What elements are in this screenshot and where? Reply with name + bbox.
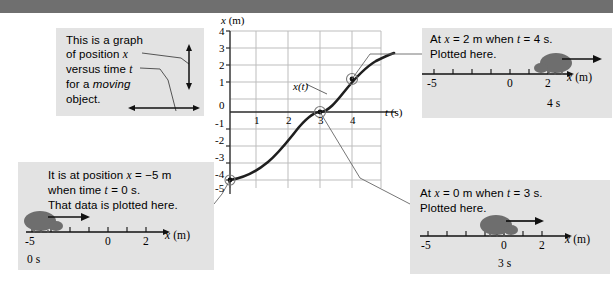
numberline-0s-axis-label: x (m) xyxy=(165,228,190,243)
chart-xtick-1: 1 xyxy=(254,114,260,126)
callout-graph-description: This is a graph of position x versus tim… xyxy=(56,28,204,116)
chart-ytick-neg3: -3 xyxy=(215,151,224,163)
numberline-4s-axis-label: x (m) xyxy=(567,70,592,85)
numberline-3s-tick-0: 0 xyxy=(501,238,507,253)
numberline-3s-tick-2: 2 xyxy=(539,238,545,253)
leader-to-3s-callout xyxy=(320,112,410,204)
numberline-0s-tick-neg5: -5 xyxy=(25,234,35,249)
numberline-3s-tick-neg5: -5 xyxy=(421,238,431,253)
chart-ytick-neg4: -4 xyxy=(215,168,224,180)
numberline-4s-tick-neg5: -5 xyxy=(427,76,437,91)
chart-xtick-2: 2 xyxy=(286,114,292,126)
numberline-4s-tick-0: 0 xyxy=(507,76,513,91)
top-gray-bar xyxy=(0,0,613,13)
animal-icon-3s xyxy=(480,215,518,237)
callout-tl-arrows xyxy=(56,28,204,116)
numberline-0s-tick-2: 2 xyxy=(143,234,149,249)
chart-ytick-4: 4 xyxy=(219,25,225,37)
chart-ytick-0: 0 xyxy=(219,99,225,111)
chart-ytick-neg5: -5 xyxy=(215,182,224,194)
callout-point-4s: At x = 2 m when t = 4 s. Plotted here. xyxy=(422,28,612,118)
numberline-4s-tick-2: 2 xyxy=(545,76,551,91)
physics-figure-position-vs-time: x (m) t (s) 4 3 2 1 0 -1 -2 -3 -4 -5 1 2… xyxy=(0,0,613,282)
numberline-0s-time-label: 0 s xyxy=(27,252,40,267)
chart-xtick-4: 4 xyxy=(350,114,356,126)
chart-ytick-neg2: -2 xyxy=(215,134,224,146)
numberline-0s-tick-0: 0 xyxy=(105,234,111,249)
numberline-0s xyxy=(18,162,214,270)
chart-gridlines xyxy=(230,31,381,188)
numberline-3s-time-label: 3 s xyxy=(498,256,511,271)
leader-to-4s-callout xyxy=(352,54,423,79)
chart-ytick-1: 1 xyxy=(219,76,225,88)
numberline-3s-axis-label: x (m) xyxy=(565,232,590,247)
callout-point-0s: It is at position x = −5 m when time t =… xyxy=(18,162,214,270)
curve-label: x(t) xyxy=(293,80,308,92)
chart-ytick-neg1: -1 xyxy=(215,117,224,129)
chart-x-axis-title: t (s) xyxy=(385,106,402,118)
animal-icon-0s xyxy=(24,211,63,233)
numberline-4s-time-label: 4 s xyxy=(547,96,560,111)
callout-point-3s: At x = 0 m when t = 3 s. Plotted here. xyxy=(410,180,610,274)
curve-label-leader xyxy=(306,84,327,94)
chart-ytick-2: 2 xyxy=(219,59,225,71)
chart-xtick-3: 3 xyxy=(318,114,324,126)
chart-ytick-3: 3 xyxy=(219,42,225,54)
